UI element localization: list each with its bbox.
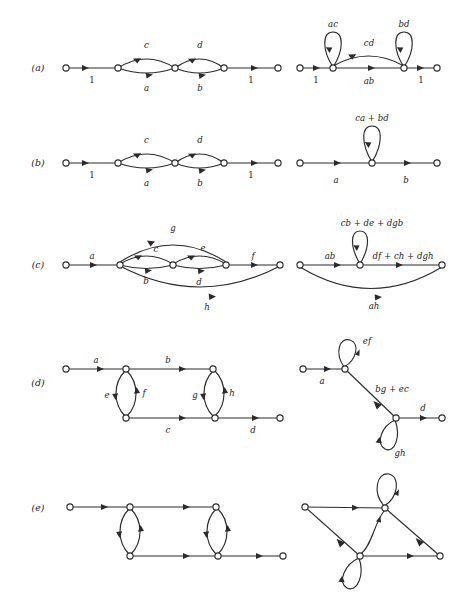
- edge-label-a-right-1b: 1: [418, 75, 423, 85]
- edge-label-b-left-c: c: [144, 135, 149, 145]
- edge-label-d-right-ef: ef: [363, 336, 373, 346]
- row-label-c: (c): [32, 259, 45, 270]
- edge-label-d-right-a: a: [319, 376, 324, 386]
- edge-label-d-right-d: d: [420, 403, 426, 413]
- edge-label-c-left-a: a: [89, 251, 94, 261]
- edge-label-b-right-cabd: ca + bd: [355, 113, 389, 123]
- original-graph-e: [67, 504, 286, 559]
- edge-label-c-right-sum: cb + de + dgb: [341, 218, 404, 228]
- edge-label-c-left-d: d: [196, 277, 202, 287]
- edge-label-b-left-1b: 1: [248, 170, 253, 180]
- edge-label-a-right-cd: cd: [364, 38, 375, 48]
- original-graph-b: 1 c a d b 1: [63, 135, 281, 188]
- edge-label-c-right-ah: ah: [369, 301, 380, 311]
- edge-label-a-right-1: 1: [313, 75, 318, 85]
- edge-label-d-left-g: g: [192, 390, 198, 400]
- edge-label-c-left-f: f: [250, 251, 256, 261]
- edge-label-a-left-1: 1: [89, 75, 94, 85]
- reduced-graph-d: a ef bg + ec gh d: [300, 336, 445, 458]
- edge-label-d-left-d: d: [250, 425, 256, 435]
- edge-label-c-left-g: g: [170, 223, 176, 233]
- edge-label-a-left-1b: 1: [248, 75, 253, 85]
- edge-label-c-left-e: e: [200, 243, 205, 253]
- edge-label-a-right-ac: ac: [328, 19, 338, 29]
- row-label-e: (e): [32, 502, 45, 513]
- edge-label-c-right-ab: ab: [325, 251, 336, 261]
- edge-label-b-right-b: b: [403, 175, 409, 185]
- edge-label-c-left-c: c: [154, 244, 159, 254]
- reduced-graph-b: a ca + bd b: [297, 113, 440, 185]
- edge-label-a-left-b: b: [197, 83, 203, 93]
- edge-label-c-left-b: b: [143, 276, 149, 286]
- edge-label-d-left-e: e: [104, 390, 109, 400]
- reduced-graph-c: ab cb + de + dgb df + ch + dgh ah: [297, 218, 445, 311]
- row-label-d: (d): [31, 377, 45, 388]
- edge-label-b-left-b: b: [197, 178, 203, 188]
- edge-label-a-right-bd: bd: [398, 19, 410, 29]
- edge-label-b-left-d: d: [197, 135, 203, 145]
- edge-label-d-left-b: b: [165, 355, 171, 365]
- edge-label-d-right-gh: gh: [394, 448, 405, 458]
- edge-label-a-right-ab: ab: [364, 76, 375, 86]
- edge-label-b-left-a: a: [144, 178, 149, 188]
- edge-label-a-left-c: c: [144, 40, 149, 50]
- row-label-a: (a): [32, 62, 45, 73]
- edge-label-c-left-h: h: [204, 302, 210, 312]
- signal-flow-graph-figure: (a) (b) (c) (d) (e) 1 c a d b 1: [0, 0, 465, 593]
- figure-canvas: (a) (b) (c) (d) (e) 1 c a d b 1: [0, 0, 465, 593]
- edge-label-b-left-1: 1: [89, 170, 94, 180]
- original-graph-a: 1 c a d b 1: [63, 40, 281, 93]
- edge-label-b-right-a: a: [333, 175, 338, 185]
- row-label-b: (b): [31, 157, 45, 168]
- edge-label-a-left-d: d: [197, 40, 203, 50]
- edge-label-d-left-c: c: [166, 425, 171, 435]
- edge-label-d-left-a: a: [93, 355, 98, 365]
- reduced-graph-a: 1 ac cd ab bd 1: [297, 19, 440, 86]
- edge-label-d-right-bg: bg + ec: [375, 384, 409, 394]
- edge-label-d-left-h: h: [229, 388, 235, 398]
- original-graph-d: a b e f g h c d: [63, 355, 283, 435]
- edge-label-c-right-df: df + ch + dgh: [373, 251, 434, 261]
- reduced-graph-e: [302, 474, 443, 589]
- original-graph-c: a g c e b d f h: [63, 223, 283, 312]
- edge-label-a-left-a: a: [144, 83, 149, 93]
- edge-label-d-left-f: f: [141, 388, 147, 398]
